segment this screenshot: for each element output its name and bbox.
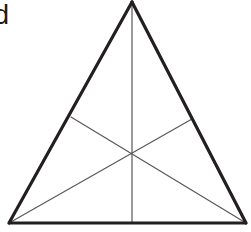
triangle-outline: [9, 2, 246, 223]
triangle-diagram-svg: [0, 0, 251, 232]
triangle-right-side: [132, 2, 246, 223]
geometric-figure-panel: d: [0, 0, 251, 232]
triangle-left-side: [9, 2, 132, 223]
interior-median-lines: [9, 2, 246, 223]
